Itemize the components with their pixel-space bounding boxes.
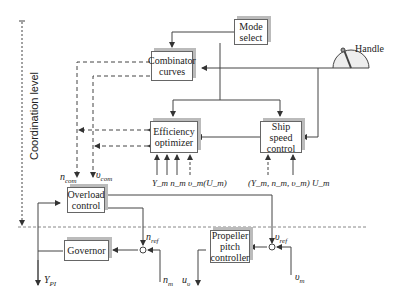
- propeller-pitch-controller-block: Propeller pitch controller: [210, 230, 250, 263]
- ship-speed-control-block: Ship speed control: [260, 121, 302, 153]
- combinator-curves-block: Combinator curves: [151, 51, 193, 81]
- governor-block: Governor: [64, 240, 109, 261]
- n-m-label: nm: [163, 275, 173, 289]
- efficiency-inputs-label: Y_m n_m υ_m(U_m): [152, 178, 227, 188]
- diagram-canvas: Coordination level Mode select Combinato…: [0, 0, 395, 297]
- n-com-label: ncom: [60, 172, 77, 186]
- coordination-level-label: Coordination level: [28, 72, 40, 160]
- ship-speed-inputs-label: (Y_m, n_m, υ_m) U_m: [248, 178, 329, 188]
- handle-label: Handle: [355, 43, 384, 54]
- overload-control-block: Overload control: [67, 187, 105, 213]
- n-ref-label: nref: [146, 232, 159, 246]
- u-v-label: uυ: [182, 275, 190, 289]
- mode-select-block: Mode select: [234, 19, 268, 45]
- v-com-label: υcom: [96, 170, 112, 184]
- efficiency-optimizer-block: Efficiency optimizer: [150, 121, 198, 153]
- v-m-label: υm: [295, 272, 305, 286]
- y-pi-label: YPI: [44, 275, 56, 289]
- v-ref-label: υref: [275, 232, 287, 246]
